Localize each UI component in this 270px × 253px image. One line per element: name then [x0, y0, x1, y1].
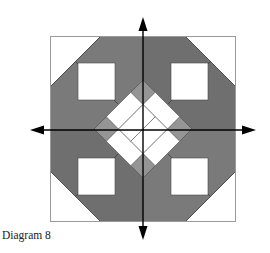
diagram-caption: Diagram 8 — [2, 229, 51, 241]
arrow-up-icon — [139, 17, 148, 31]
arrow-right-icon — [242, 126, 256, 135]
arrow-left-icon — [30, 126, 44, 135]
quilt-block-diagram — [0, 0, 270, 253]
white-square-bottom-right — [171, 158, 208, 195]
white-square-bottom-left — [78, 158, 115, 195]
arrow-down-icon — [139, 226, 148, 240]
white-square-top-right — [171, 63, 208, 100]
white-square-top-left — [78, 63, 115, 100]
